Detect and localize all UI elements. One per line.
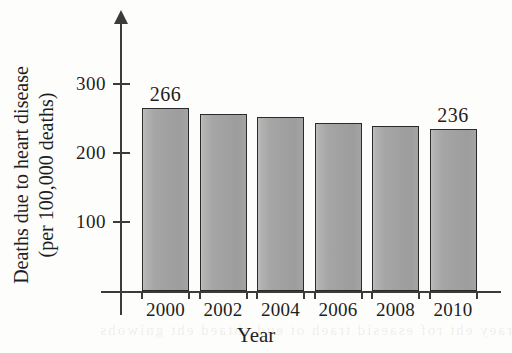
bar-chart-plot-area: 100200300 200020022004200620082010 26623… (0, 0, 512, 353)
value-label-2000: 266 (136, 84, 196, 104)
y-axis-tick-label-300: 300 (60, 74, 106, 93)
x-axis-tick-2002-right (246, 292, 248, 299)
x-axis-label-2002: 2002 (193, 300, 253, 319)
x-axis-title: Year (0, 325, 512, 346)
y-axis-tick-label-200: 200 (60, 143, 106, 162)
bar-2002 (200, 114, 247, 291)
y-axis-tick-label-text: 300 (60, 74, 106, 93)
y-axis-tick-label-100: 100 (60, 212, 106, 231)
x-axis-tick-2008-left (371, 292, 373, 299)
y-axis-tick-label-text: 200 (60, 143, 106, 162)
y-axis-tick-200 (113, 152, 130, 154)
y-axis-title-line-1: Deaths due to heart disease (9, 25, 34, 325)
bar-2008 (372, 126, 419, 291)
x-axis-label-2010: 2010 (423, 300, 483, 319)
x-axis-tick-2002-left (199, 292, 201, 299)
x-axis-tick-2008-right (418, 292, 420, 299)
bar-2010 (430, 129, 477, 291)
x-axis-label-2000: 2000 (136, 300, 196, 319)
y-axis-line (120, 18, 122, 315)
x-axis-tick-2000-left (141, 292, 143, 299)
x-axis-label-2008: 2008 (366, 300, 426, 319)
x-axis-tick-2000-right (188, 292, 190, 299)
x-axis-tick-2010-left (429, 292, 431, 299)
x-axis-tick-2004-right (303, 292, 305, 299)
chart-figure: raey eht rof esaesid traeh ot eud shtaed… (0, 0, 512, 353)
y-axis-tick-100 (113, 221, 130, 223)
bar-2004 (257, 117, 304, 291)
x-axis-line (101, 291, 501, 293)
x-axis-tick-2010-right (476, 292, 478, 299)
x-axis-label-2004: 2004 (251, 300, 311, 319)
x-axis-tick-origin (120, 292, 122, 299)
y-axis-title: Deaths due to heart disease (per 100,000… (9, 25, 59, 325)
bar-2006 (315, 123, 362, 291)
y-axis-tick-label-text: 100 (60, 212, 106, 231)
y-axis-title-line-2: (per 100,000 deaths) (34, 25, 59, 325)
x-axis-label-2006: 2006 (308, 300, 368, 319)
y-axis-tick-300 (113, 83, 130, 85)
value-label-2010: 236 (423, 105, 483, 125)
bar-2000 (142, 108, 189, 291)
x-axis-tick-2006-left (314, 292, 316, 299)
x-axis-tick-2006-right (361, 292, 363, 299)
x-axis-tick-2004-left (256, 292, 258, 299)
